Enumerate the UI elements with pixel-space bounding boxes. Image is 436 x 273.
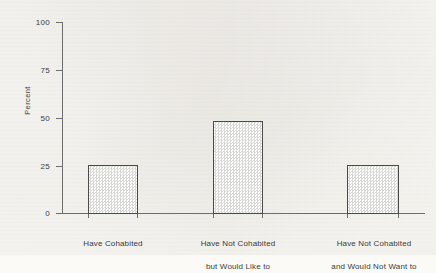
y-tick-mark-75 xyxy=(56,70,62,71)
y-tick-mark-25 xyxy=(56,166,62,167)
y-tick-label-25: 25 xyxy=(14,162,50,171)
x-category-label-2-line1: Have Not Cohabited xyxy=(188,238,288,250)
bar-have-not-cohabited-would-not-want-to xyxy=(347,165,399,214)
y-axis-line xyxy=(62,22,63,214)
y-tick-mark-100 xyxy=(56,22,62,23)
x-category-label-1: Have Cohabited xyxy=(63,226,163,261)
y-tick-label-0: 0 xyxy=(14,209,50,218)
y-axis-title: Percent xyxy=(23,66,32,136)
x-category-label-3-line2: and Would Not Want to xyxy=(315,261,433,273)
x-category-label-1-line1: Have Cohabited xyxy=(63,238,163,250)
x-category-label-2: Have Not Cohabited but Would Like to xyxy=(188,226,288,273)
x-category-label-3-line1: Have Not Cohabited xyxy=(315,238,433,250)
x-category-label-3: Have Not Cohabited and Would Not Want to xyxy=(315,226,433,273)
y-tick-label-75: 75 xyxy=(14,66,50,75)
x-category-label-2-line2: but Would Like to xyxy=(188,261,288,273)
y-tick-label-50: 50 xyxy=(14,114,50,123)
bar-have-cohabited xyxy=(88,165,138,214)
y-tick-mark-50 xyxy=(56,118,62,119)
bar-have-not-cohabited-would-like-to xyxy=(213,121,263,214)
y-tick-mark-0 xyxy=(56,213,62,214)
y-tick-label-100: 100 xyxy=(14,18,50,27)
